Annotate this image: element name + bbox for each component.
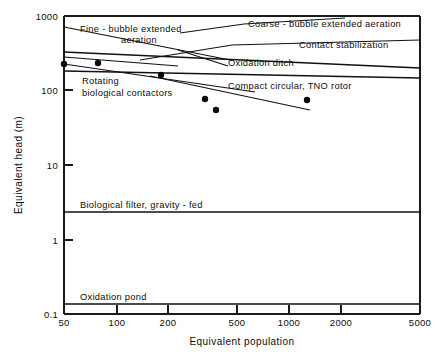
data-point xyxy=(158,72,164,78)
data-point xyxy=(304,97,310,103)
series-label-fine-bubble-line1: Fine - bubble extended xyxy=(80,24,182,34)
x-axis-title: Equivalent population xyxy=(189,336,294,347)
series-label-oxidation-pond: Oxidation pond xyxy=(80,292,147,302)
equivalent-head-vs-population-chart: 1000 100 10 1 0.1 50 100 200 500 1000 20… xyxy=(0,0,447,361)
x-tick-label-100: 100 xyxy=(109,317,126,328)
series-label-contact-stabilization: Contact stabilization xyxy=(299,40,389,50)
x-tick-label-50: 50 xyxy=(58,317,69,328)
x-tick-label-5000: 5000 xyxy=(409,317,431,328)
series-label-coarse-bubble: Coarse - bubble extended aeration xyxy=(248,19,401,29)
series-label-rotating-contactors-line1: Rotating xyxy=(82,76,119,86)
y-tick-label-1000: 1000 xyxy=(36,11,58,22)
y-tick-label-0.1: 0.1 xyxy=(44,309,58,320)
chart-figure: 1000 100 10 1 0.1 50 100 200 500 1000 20… xyxy=(0,0,447,361)
data-point xyxy=(202,96,208,102)
y-axis-ticks xyxy=(64,16,73,314)
leader-oxidation-ditch xyxy=(64,57,178,66)
y-axis-title: Equivalent head (m) xyxy=(13,116,24,214)
series-label-compact-circular: Compact circular, TNO rotor xyxy=(228,81,352,91)
y-tick-label-10: 10 xyxy=(47,160,58,171)
series-label-rotating-contactors-line2: biological contactors xyxy=(82,88,173,98)
x-tick-label-1000: 1000 xyxy=(278,317,300,328)
series-label-fine-bubble-line2: aeration xyxy=(121,35,157,45)
x-axis-tick-labels: 50 100 200 500 1000 2000 5000 xyxy=(58,317,431,328)
data-point xyxy=(213,107,219,113)
x-tick-label-500: 500 xyxy=(229,317,246,328)
data-point xyxy=(61,61,67,67)
series-label-oxidation-ditch: Oxidation ditch xyxy=(228,58,294,68)
y-axis-tick-labels: 1000 100 10 1 0.1 xyxy=(36,11,58,320)
series-label-biological-filter: Biological filter, gravity - fed xyxy=(80,200,203,210)
x-tick-label-200: 200 xyxy=(160,317,177,328)
y-tick-label-1: 1 xyxy=(52,235,58,246)
y-tick-label-100: 100 xyxy=(41,85,58,96)
data-point xyxy=(95,60,101,66)
x-tick-label-2000: 2000 xyxy=(330,317,352,328)
x-axis-ticks xyxy=(64,305,420,314)
leader-coarse-bubble xyxy=(180,24,244,33)
